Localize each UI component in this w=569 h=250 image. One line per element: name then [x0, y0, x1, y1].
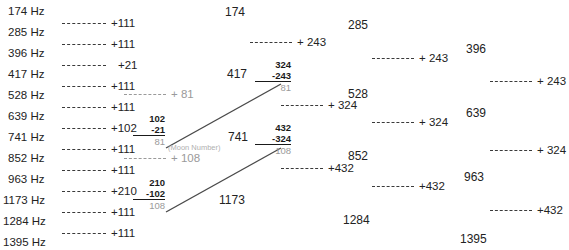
dash-line [62, 65, 106, 66]
delta-c3-3: +432 [372, 181, 445, 193]
value-852: 852 [348, 150, 368, 162]
sub-102-21: 102 -21 81 [133, 114, 165, 148]
value-1395: 1395 [460, 233, 487, 245]
dash-line [281, 168, 323, 169]
dash-line [124, 158, 166, 159]
value-285: 285 [348, 19, 368, 31]
value-639: 639 [466, 107, 486, 119]
hz-label-963: 963 Hz [8, 174, 44, 186]
dash-line [62, 23, 106, 24]
delta-c4-2: + 324 [490, 145, 566, 157]
dash-line [62, 170, 106, 171]
hz-label-639: 639 Hz [8, 111, 44, 123]
hz-label-852: 852 Hz [8, 153, 44, 165]
value-174: 174 [225, 6, 245, 18]
value-963: 963 [464, 171, 484, 183]
delta-c1-5: +111 [62, 102, 135, 114]
dash-line [372, 186, 414, 187]
dash-line [62, 44, 106, 45]
dash-line [124, 94, 166, 95]
dash-line [281, 105, 323, 106]
value-1173: 1173 [219, 194, 245, 206]
delta-c1-10: +111 [62, 207, 135, 219]
value-417: 417 [227, 68, 247, 80]
delta-c1-3: +21 [62, 60, 138, 72]
dash-line [62, 128, 106, 129]
delta-c1-8: +111 [62, 165, 135, 177]
hz-label-528: 528 Hz [8, 90, 44, 102]
delta-c4-3: +432 [490, 205, 563, 217]
value-1284: 1284 [343, 214, 370, 226]
sub-432-324: 432 -324 108 [255, 123, 291, 157]
delta-c2-3: +432 [281, 163, 354, 175]
sub-324-243: 324 -243 81 [255, 60, 291, 94]
delta-c1-1: +111 [62, 18, 135, 30]
hz-label-1173: 1173 Hz [3, 195, 45, 207]
dash-line [372, 122, 414, 123]
dash-line [62, 86, 106, 87]
dash-line [490, 210, 532, 211]
moon-number-caption: (Moon Number) [168, 144, 221, 152]
value-741: 741 [228, 131, 248, 143]
delta-c1-2: +111 [62, 39, 135, 51]
delta-c2-1: + 243 [250, 37, 326, 49]
hz-label-174: 174 Hz [8, 6, 44, 18]
dash-line [62, 212, 106, 213]
delta-c3-2: + 324 [372, 117, 448, 129]
dash-line [372, 58, 414, 59]
hz-label-1284: 1284 Hz [3, 216, 46, 228]
dash-line [490, 150, 532, 151]
delta-c1-9: +210 [62, 186, 137, 198]
hz-label-417: 417 Hz [8, 69, 44, 81]
delta-faint-108: + 108 [124, 153, 200, 165]
hz-label-396: 396 Hz [8, 48, 44, 60]
value-528: 528 [348, 88, 368, 100]
delta-c3-1: + 243 [372, 53, 448, 65]
delta-c4-1: + 243 [490, 76, 566, 88]
value-396: 396 [466, 43, 486, 55]
sub-210-102: 210 -102 108 [133, 178, 165, 212]
dash-line [62, 191, 106, 192]
delta-c1-11: +111 [62, 228, 135, 240]
hz-label-1395: 1395 Hz [3, 237, 46, 249]
hz-label-285: 285 Hz [8, 27, 44, 39]
dash-line [62, 233, 106, 234]
dash-line [62, 107, 106, 108]
dash-line [250, 42, 292, 43]
delta-faint-81: + 81 [124, 89, 194, 101]
dash-line [62, 149, 106, 150]
hz-label-741: 741 Hz [8, 132, 44, 144]
delta-c1-6: +102 [62, 123, 137, 135]
chart-canvas: 174 Hz 285 Hz 396 Hz 417 Hz 528 Hz 639 H… [0, 0, 569, 250]
dash-line [490, 81, 532, 82]
delta-c2-2: + 324 [281, 100, 357, 112]
